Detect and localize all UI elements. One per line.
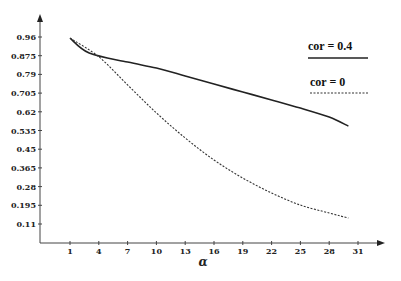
series bbox=[70, 38, 348, 218]
x-tick-label: 25 bbox=[295, 246, 306, 256]
y-tick-label: 0.62 bbox=[17, 107, 36, 117]
y-tick-label: 0.195 bbox=[11, 200, 36, 210]
x-tick-label: 1 bbox=[67, 246, 73, 256]
y-tick-label: 0.365 bbox=[11, 163, 36, 173]
series-line-cor-0 bbox=[70, 38, 348, 218]
x-tick-label: 10 bbox=[151, 246, 163, 256]
legend-label-cor-0-4: cor = 0.4 bbox=[308, 39, 352, 53]
y-ticks: 0.960.8750.790.7050.620.5350.450.3650.28… bbox=[11, 32, 42, 229]
y-tick-label: 0.705 bbox=[11, 88, 36, 98]
series-line-cor-0-4 bbox=[70, 38, 348, 126]
x-tick-label: 19 bbox=[237, 246, 249, 256]
x-axis-arrow-icon bbox=[377, 240, 385, 246]
y-tick-label: 0.11 bbox=[17, 219, 36, 229]
y-tick-label: 0.28 bbox=[17, 182, 37, 192]
x-tick-label: 13 bbox=[180, 246, 192, 256]
legend: cor = 0.4 cor = 0 bbox=[308, 39, 368, 93]
x-tick-label: 4 bbox=[96, 246, 102, 256]
x-tick-label: 31 bbox=[352, 246, 363, 256]
x-tick-label: 28 bbox=[324, 246, 336, 256]
y-tick-label: 0.79 bbox=[17, 69, 37, 79]
y-tick-label: 0.96 bbox=[17, 32, 37, 42]
y-tick-label: 0.535 bbox=[11, 126, 36, 136]
x-tick-label: 22 bbox=[266, 246, 277, 256]
y-axis bbox=[37, 14, 43, 243]
y-tick-label: 0.875 bbox=[11, 51, 36, 61]
line-chart: 0.960.8750.790.7050.620.5350.450.3650.28… bbox=[0, 0, 401, 281]
y-axis-arrow-icon bbox=[37, 14, 43, 22]
x-tick-label: 7 bbox=[125, 246, 131, 256]
legend-label-cor-0: cor = 0 bbox=[310, 75, 345, 89]
y-tick-label: 0.45 bbox=[17, 144, 36, 154]
x-tick-label: 16 bbox=[208, 246, 220, 256]
x-axis-label: α bbox=[198, 255, 207, 269]
